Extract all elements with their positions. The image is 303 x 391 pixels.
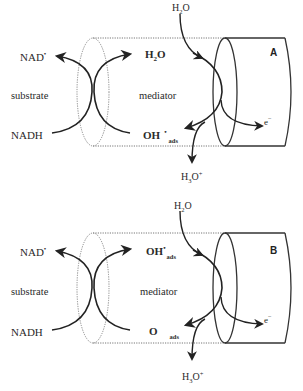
electron-label: e− xyxy=(264,115,272,127)
inner-top-label: H2O xyxy=(145,48,166,63)
inner-bottom-label: OH•ads xyxy=(143,128,178,144)
electrode-ellipse xyxy=(213,233,237,343)
mediator-label: mediator xyxy=(140,286,178,297)
electrode-end-cap xyxy=(285,38,291,146)
arrow-mediator-cycle xyxy=(94,249,130,330)
arrow-hydronium-out xyxy=(192,319,205,359)
arrow-electron-out xyxy=(221,297,262,324)
nad-label: NAD• xyxy=(20,50,47,63)
inner-bottom-label: Oads xyxy=(149,325,179,340)
hydronium-output-label: H3O+ xyxy=(181,170,203,184)
nad-label: NAD• xyxy=(20,245,47,258)
electrode-end-cap xyxy=(285,233,291,343)
arrow-water-in xyxy=(180,14,202,58)
arrow-to-o-ads xyxy=(186,250,222,325)
dotted-membrane-ellipse xyxy=(77,233,109,343)
panel-letter-b: B xyxy=(270,245,277,256)
arrow-to-oh xyxy=(186,53,222,128)
electrode-ellipse xyxy=(213,38,237,146)
arrow-nadh-to-nad xyxy=(52,56,92,133)
arrow-mediator-cycle xyxy=(94,54,130,133)
nadh-label: NADH xyxy=(11,326,43,338)
water-input-label: H2O xyxy=(172,2,190,15)
mediator-label: mediator xyxy=(139,90,177,101)
panel-b: NAD• substrate NADH OH•ads mediator Oads… xyxy=(11,200,291,384)
dotted-membrane-ellipse xyxy=(77,38,109,146)
arrow-electron-out xyxy=(221,100,262,126)
panel-a: NAD• substrate NADH H2O mediator OH•ads … xyxy=(11,2,291,184)
inner-top-label: OH•ads xyxy=(146,244,176,260)
electron-label: e− xyxy=(264,313,272,325)
hydronium-output-label: H3O+ xyxy=(182,370,204,384)
electrocatalysis-diagram: NAD• substrate NADH H2O mediator OH•ads … xyxy=(0,0,303,391)
arrow-nadh-to-nad xyxy=(52,251,92,330)
panel-letter-a: A xyxy=(270,47,277,58)
substrate-label: substrate xyxy=(11,90,49,101)
arrow-hydronium-out xyxy=(192,122,205,162)
water-input-label: H2O xyxy=(174,200,192,213)
nadh-label: NADH xyxy=(11,129,43,141)
substrate-label: substrate xyxy=(11,286,49,297)
